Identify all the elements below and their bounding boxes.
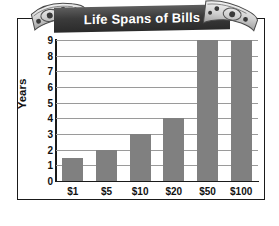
bar: [96, 150, 117, 181]
x-axis-tick-label: $5: [90, 186, 124, 197]
y-axis-tick-label: 0: [33, 176, 53, 187]
y-axis-tick-label: 1: [33, 160, 53, 171]
gridline: [56, 71, 258, 72]
y-axis-title: Years: [16, 64, 28, 124]
x-axis-tick-label: $50: [191, 186, 225, 197]
x-axis-tick-label: $1: [56, 186, 90, 197]
bar: [130, 134, 151, 181]
x-axis-tick-label: $20: [157, 186, 191, 197]
bar: [231, 40, 252, 181]
gridline: [56, 150, 258, 151]
bar: [197, 40, 218, 181]
y-axis-tick-label: 5: [33, 97, 53, 108]
gridline: [56, 118, 258, 119]
gridline: [56, 134, 258, 135]
y-axis-tick-label: 3: [33, 129, 53, 140]
gridline: [56, 87, 258, 88]
gridline: [56, 165, 258, 166]
y-axis-tick-label: 6: [33, 82, 53, 93]
x-axis-tick-label: $10: [123, 186, 157, 197]
y-axis-tick-label: 7: [33, 66, 53, 77]
y-axis-tick-label: 9: [33, 35, 53, 46]
plot-area: [56, 40, 258, 181]
y-axis-tick-label: 2: [33, 144, 53, 155]
y-axis-tick-label: 4: [33, 113, 53, 124]
gridline: [56, 40, 258, 41]
chart-figure: Life Spans of Bills Years 0123456789 $1$…: [0, 0, 279, 226]
bar: [62, 158, 83, 182]
x-axis-tick-label: $100: [224, 186, 258, 197]
gridline: [56, 103, 258, 104]
title-banner: Life Spans of Bills: [34, 1, 246, 35]
y-axis-tick-label: 8: [33, 50, 53, 61]
bar: [163, 118, 184, 181]
gridline: [56, 56, 258, 57]
